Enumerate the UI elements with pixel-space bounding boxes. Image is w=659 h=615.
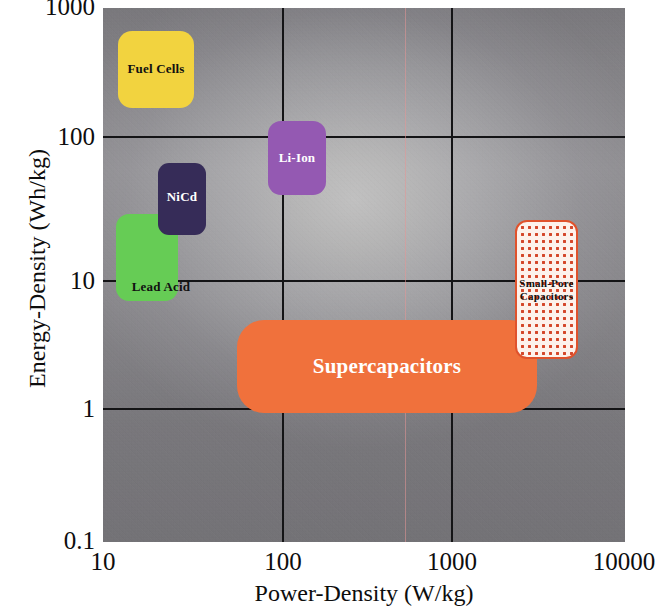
x-tick-1000: 1000 — [397, 548, 507, 576]
region-lead-acid-label: Lead Acid — [132, 280, 191, 294]
scan-artifact-line — [405, 8, 406, 542]
x-tick-10: 10 — [68, 548, 138, 576]
region-small-pore-capacitors[interactable]: Small-Pore Capacitors — [515, 220, 578, 359]
x-tick-100: 100 — [238, 548, 328, 576]
region-nicd[interactable]: NiCd — [158, 163, 206, 235]
y-axis-label: Energy-Density (Wh/kg) — [24, 59, 51, 479]
region-li-ion[interactable]: Li-Ion — [268, 121, 326, 195]
region-fuel-cells-label: Fuel Cells — [127, 62, 184, 76]
x-tick-10000: 10000 — [559, 548, 659, 576]
x-axis-label: Power-Density (W/kg) — [103, 580, 625, 607]
y-tick-1000: 1000 — [0, 0, 95, 21]
region-small-pore-label-line1: Small-Pore — [519, 277, 573, 289]
gridline-horizontal-100 — [103, 136, 625, 138]
region-supercapacitors-label: Supercapacitors — [313, 355, 461, 378]
region-li-ion-label: Li-Ion — [279, 151, 316, 165]
gridline-vertical-100 — [282, 8, 284, 542]
region-nicd-label: NiCd — [167, 190, 197, 204]
region-supercapacitors[interactable]: Supercapacitors — [237, 320, 537, 413]
region-small-pore-capacitors-label: Small-Pore Capacitors — [519, 277, 573, 301]
region-small-pore-label-line2: Capacitors — [519, 290, 573, 302]
plot-area: Fuel Cells Lead Acid NiCd Li-Ion Superca… — [103, 8, 625, 542]
gridline-vertical-1000 — [451, 8, 453, 542]
region-fuel-cells[interactable]: Fuel Cells — [118, 31, 194, 108]
